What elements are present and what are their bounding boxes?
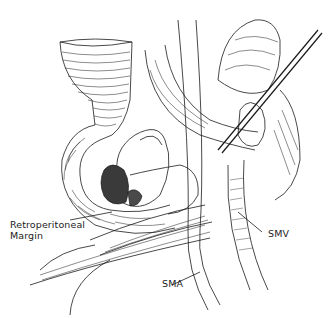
pancreatic-head [117,130,198,214]
label-line-2: Margin [10,230,85,241]
tumor [101,165,142,206]
retroperitoneal-margin-label: Retroperitoneal Margin [10,219,85,241]
sma-label: SMA [162,278,183,289]
label-line-1: Retroperitoneal [10,219,85,230]
smv-label: SMV [268,228,289,239]
illustration [0,0,329,318]
